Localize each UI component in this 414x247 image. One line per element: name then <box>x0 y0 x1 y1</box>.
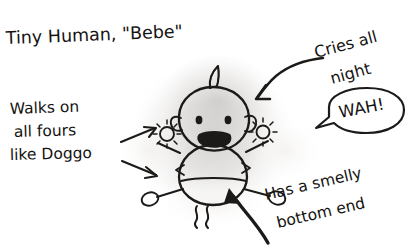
drawing-surface: Tiny Human, "Bebe" Walks on all fours li… <box>0 0 414 247</box>
speech-bubble: WAH! <box>316 88 404 133</box>
title-text: Tiny Human, "Bebe" <box>4 21 183 48</box>
right-eye <box>225 116 232 124</box>
speech-bubble-text: WAH! <box>337 95 386 122</box>
left-label-line2: all fours <box>14 121 77 141</box>
cries-label-line1: Cries all <box>312 27 379 62</box>
left-label-line1: Walks on <box>10 98 80 118</box>
title-label: Tiny Human, "Bebe" <box>4 21 183 48</box>
sketch-canvas: Tiny Human, "Bebe" Walks on all fours li… <box>0 0 414 247</box>
cries-label-line2: night <box>328 59 373 88</box>
left-eye <box>196 116 203 124</box>
left-label-line3: like Doggo <box>10 144 93 164</box>
smelly-label-line2: bottom end <box>275 194 367 232</box>
